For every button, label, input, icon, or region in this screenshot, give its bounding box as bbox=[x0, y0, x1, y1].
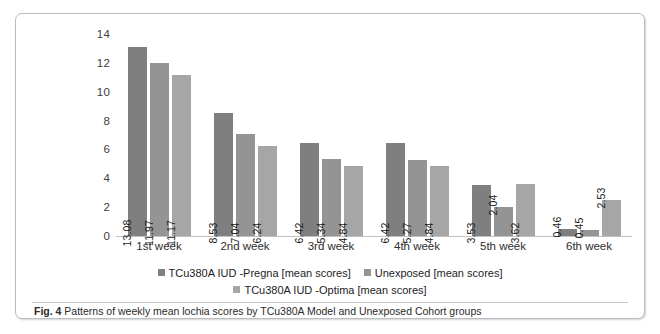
bar-group: 8.537.046.24 bbox=[208, 34, 282, 236]
legend-item[interactable]: TCu380A IUD -Pregna [mean scores] bbox=[158, 267, 351, 279]
caption-divider bbox=[32, 302, 628, 303]
x-axis-tick-label: 3rd week bbox=[294, 240, 368, 252]
bar-value-label: 0.45 bbox=[570, 217, 589, 238]
x-axis-tick-label: 1st week bbox=[122, 240, 196, 252]
bar-value-label: 2.53 bbox=[592, 187, 611, 208]
bar-group: 13.0811.9711.17 bbox=[122, 34, 196, 236]
bar-series-1[interactable]: 8.53 bbox=[214, 113, 233, 236]
bar-value-label: 0.46 bbox=[548, 217, 567, 238]
bar-group: 6.425.344.84 bbox=[294, 34, 368, 236]
x-axis: 1st week2nd week3rd week4th week5th week… bbox=[116, 240, 632, 262]
bar-series-2[interactable]: 11.97 bbox=[150, 63, 169, 236]
bar-series-3[interactable]: 4.84 bbox=[344, 166, 363, 236]
legend-row-secondary: TCu380A IUD -Optima [mean scores] bbox=[16, 281, 644, 298]
x-axis-tick-label: 4th week bbox=[380, 240, 454, 252]
bar-group: 0.460.452.53 bbox=[552, 34, 626, 236]
plot-area: 13.0811.9711.178.537.046.246.425.344.846… bbox=[116, 34, 632, 236]
y-axis-tick-label: 2 bbox=[84, 201, 110, 213]
legend-swatch-series-1 bbox=[158, 269, 165, 276]
bar-series-3[interactable]: 4.84 bbox=[430, 166, 449, 236]
figure-caption: Fig. 4 Patterns of weekly mean lochia sc… bbox=[34, 305, 634, 317]
bar-series-2[interactable]: 7.04 bbox=[236, 134, 255, 236]
x-axis-tick-label: 6th week bbox=[552, 240, 626, 252]
bar-group: 6.425.274.84 bbox=[380, 34, 454, 236]
bar-series-3[interactable]: 6.24 bbox=[258, 146, 277, 236]
chart-legend: TCu380A IUD -Pregna [mean scores]Unexpos… bbox=[16, 264, 644, 298]
y-axis-tick-label: 12 bbox=[84, 57, 110, 69]
figure-card: 02468101214 13.0811.9711.178.537.046.246… bbox=[15, 13, 645, 319]
legend-item[interactable]: Unexposed [mean scores] bbox=[364, 267, 503, 279]
y-axis-tick-label: 4 bbox=[84, 172, 110, 184]
legend-row-primary: TCu380A IUD -Pregna [mean scores]Unexpos… bbox=[16, 264, 644, 281]
legend-swatch-series-2 bbox=[364, 269, 371, 276]
bar-group: 3.532.043.62 bbox=[466, 34, 540, 236]
bar-value-label: 2.04 bbox=[484, 194, 503, 215]
legend-item-label: TCu380A IUD -Pregna [mean scores] bbox=[169, 267, 351, 279]
figure-caption-text: Patterns of weekly mean lochia scores by… bbox=[64, 305, 481, 317]
y-axis-tick-label: 8 bbox=[84, 115, 110, 127]
bar-series-3[interactable]: 3.62 bbox=[516, 184, 535, 236]
legend-item-label: TCu380A IUD -Optima [mean scores] bbox=[244, 284, 426, 296]
y-axis: 02468101214 bbox=[84, 34, 110, 236]
y-axis-tick-label: 10 bbox=[84, 86, 110, 98]
x-axis-tick-label: 5th week bbox=[466, 240, 540, 252]
x-axis-tick-label: 2nd week bbox=[208, 240, 282, 252]
y-axis-tick-label: 14 bbox=[84, 28, 110, 40]
figure-caption-label: Fig. 4 bbox=[34, 305, 61, 317]
bar-chart: 02468101214 13.0811.9711.178.537.046.246… bbox=[16, 14, 644, 264]
legend-swatch-series-3 bbox=[233, 286, 240, 293]
legend-item-label: Unexposed [mean scores] bbox=[375, 267, 503, 279]
bar-series-1[interactable]: 13.08 bbox=[128, 47, 147, 236]
y-axis-tick-label: 0 bbox=[84, 230, 110, 242]
y-axis-tick-label: 6 bbox=[84, 143, 110, 155]
bar-series-3[interactable]: 11.17 bbox=[172, 75, 191, 236]
bar-series-3[interactable]: 2.53 bbox=[602, 200, 621, 237]
legend-item[interactable]: TCu380A IUD -Optima [mean scores] bbox=[233, 284, 426, 296]
bar-series-2[interactable]: 0.45 bbox=[580, 230, 599, 236]
